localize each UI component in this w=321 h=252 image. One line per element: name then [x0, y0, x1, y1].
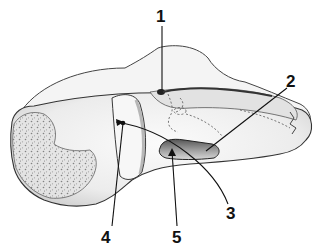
label-3: 3 — [226, 205, 235, 222]
label-1: 1 — [156, 8, 165, 25]
label-2: 2 — [286, 73, 295, 90]
label-5: 5 — [172, 229, 181, 246]
bone-illustration — [0, 0, 321, 252]
label-4: 4 — [101, 229, 110, 246]
